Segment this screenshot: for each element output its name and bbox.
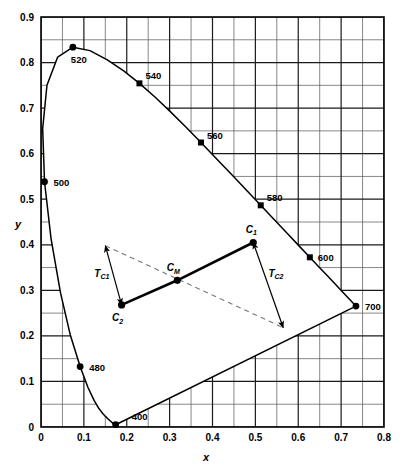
wavelength-label-700: 700 xyxy=(365,301,381,312)
y-tick-label: 0.1 xyxy=(20,376,34,387)
wavelength-label-600: 600 xyxy=(318,252,334,263)
wavelength-marker-700 xyxy=(353,303,360,310)
chromaticity-point-c1 xyxy=(250,239,257,246)
x-axis-title: x xyxy=(202,451,210,463)
wavelength-marker-600 xyxy=(307,254,313,260)
x-tick-label: 0.8 xyxy=(377,432,391,443)
y-axis-tick-labels: 00.10.20.30.40.50.60.70.80.9 xyxy=(20,12,34,433)
wavelength-marker-500 xyxy=(41,178,48,185)
wavelength-label-500: 500 xyxy=(54,177,70,188)
wavelength-marker-400 xyxy=(112,421,119,428)
wavelength-marker-520 xyxy=(69,44,76,51)
x-tick-label: 0.6 xyxy=(291,432,305,443)
chromaticity-point-c2 xyxy=(118,301,125,308)
y-tick-label: 0.7 xyxy=(20,103,34,114)
chart-canvas: TC1TC2 400480500520540560580600700 C1CMC… xyxy=(0,0,406,471)
y-tick-label: 0 xyxy=(28,422,34,433)
wavelength-label-400: 400 xyxy=(132,411,148,422)
y-tick-label: 0.8 xyxy=(20,57,34,68)
wavelength-marker-560 xyxy=(198,140,204,146)
y-tick-label: 0.9 xyxy=(20,12,34,23)
wavelength-marker-580 xyxy=(258,202,264,208)
x-tick-label: 0.7 xyxy=(334,432,348,443)
wavelength-label-580: 580 xyxy=(267,192,283,203)
wavelength-marker-480 xyxy=(77,363,84,370)
x-tick-label: 0.1 xyxy=(77,432,91,443)
y-tick-label: 0.6 xyxy=(20,148,34,159)
chromaticity-point-cm xyxy=(174,277,181,284)
wavelength-marker-540 xyxy=(136,80,142,86)
y-tick-label: 0.2 xyxy=(20,330,34,341)
x-axis-tick-labels: 00.10.20.30.40.50.60.70.8 xyxy=(38,432,391,443)
y-tick-label: 0.3 xyxy=(20,285,34,296)
x-tick-label: 0 xyxy=(38,432,44,443)
chromaticity-diagram-figure: TC1TC2 400480500520540560580600700 C1CMC… xyxy=(0,0,406,471)
x-tick-label: 0.5 xyxy=(248,432,262,443)
y-axis-title: y xyxy=(14,218,22,230)
wavelength-label-520: 520 xyxy=(71,54,87,65)
y-tick-label: 0.5 xyxy=(20,194,34,205)
wavelength-label-540: 540 xyxy=(145,70,161,81)
x-tick-label: 0.3 xyxy=(163,432,177,443)
wavelength-label-560: 560 xyxy=(207,130,223,141)
x-tick-label: 0.4 xyxy=(206,432,220,443)
x-tick-label: 0.2 xyxy=(120,432,134,443)
wavelength-label-480: 480 xyxy=(89,362,105,373)
y-tick-label: 0.4 xyxy=(20,239,34,250)
